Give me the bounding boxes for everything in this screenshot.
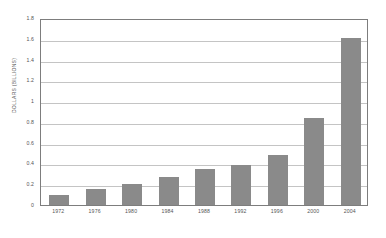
bar-slot (333, 20, 369, 205)
x-axis-tick-label: 2000 (307, 209, 319, 214)
x-axis-tick-label: 1996 (271, 209, 283, 214)
x-axis-tick-label: 1976 (89, 209, 101, 214)
y-axis-tick-label: 1 (31, 100, 34, 105)
bar-slot (150, 20, 186, 205)
bar-slot (296, 20, 332, 205)
y-axis-tick-label: 0.4 (26, 162, 34, 167)
y-axis-tick-label: 1.8 (26, 16, 34, 21)
y-axis: 1.81.61.41.210.80.60.40.20 (0, 19, 38, 206)
x-axis-tick-label: 1988 (198, 209, 210, 214)
bar-series (41, 20, 367, 205)
y-axis-tick-label: 1.6 (26, 37, 34, 42)
x-axis: 197219761980198419881992199620002004 (40, 209, 368, 225)
y-axis-tick-label: 1.2 (26, 79, 34, 84)
x-axis-tick-label: 1984 (161, 209, 173, 214)
bar (268, 155, 288, 205)
bar (304, 118, 324, 205)
bar (122, 184, 142, 205)
y-axis-tick-label: 1.4 (26, 58, 34, 63)
x-axis-tick-label: 1972 (52, 209, 64, 214)
bar-slot (41, 20, 77, 205)
bar-slot (223, 20, 259, 205)
y-axis-tick-label: 0.2 (26, 183, 34, 188)
bar (49, 195, 69, 205)
y-axis-tick-label: 0.6 (26, 141, 34, 146)
x-axis-tick-label: 2004 (344, 209, 356, 214)
bar-chart-figure: DOLLARS (BILLIONS) 1.81.61.41.210.80.60.… (0, 0, 386, 238)
bar (195, 169, 215, 205)
bar-slot (114, 20, 150, 205)
bar (159, 177, 179, 205)
plot-area (40, 19, 368, 206)
bar-slot (260, 20, 296, 205)
bar (86, 189, 106, 205)
y-axis-tick-label: 0.8 (26, 120, 34, 125)
x-axis-tick-label: 1992 (234, 209, 246, 214)
bar (231, 165, 251, 205)
y-axis-tick-label: 0 (31, 203, 34, 208)
bar-slot (77, 20, 113, 205)
bar (341, 38, 361, 205)
bar-slot (187, 20, 223, 205)
x-axis-tick-label: 1980 (125, 209, 137, 214)
